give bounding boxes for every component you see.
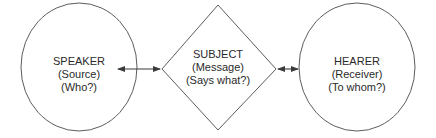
subject-label: SUBJECT (Message) (Says what?) bbox=[163, 48, 273, 87]
speaker-title: SPEAKER bbox=[24, 55, 134, 68]
hearer-title: HEARER bbox=[302, 55, 412, 68]
hearer-label: HEARER (Receiver) (To whom?) bbox=[302, 55, 412, 94]
hearer-question: (To whom?) bbox=[302, 81, 412, 94]
speaker-question: (Who?) bbox=[24, 81, 134, 94]
speaker-label: SPEAKER (Source) (Who?) bbox=[24, 55, 134, 94]
hearer-role: (Receiver) bbox=[302, 68, 412, 81]
subject-question: (Says what?) bbox=[163, 74, 273, 87]
subject-title: SUBJECT bbox=[163, 48, 273, 61]
speaker-role: (Source) bbox=[24, 68, 134, 81]
subject-role: (Message) bbox=[163, 61, 273, 74]
